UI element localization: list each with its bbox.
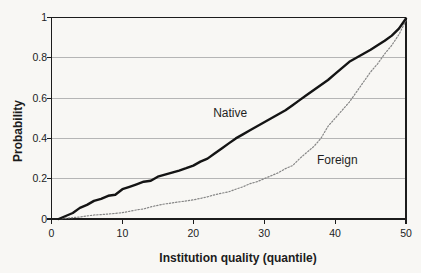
x-tick-label: 30 [249,227,279,240]
foreign-series-label: Foreign [317,153,358,167]
y-tick-label: 0.6 [4,92,47,105]
x-tick-label: 40 [320,227,350,240]
y-tick-label: 0 [4,213,47,226]
cdf-figure: Probability Institution quality (quantil… [0,0,421,273]
y-tick-label: 0.8 [4,51,47,64]
x-tick-label: 10 [107,227,137,240]
y-tick-label: 1 [4,11,47,24]
x-tick-label: 50 [391,227,421,240]
native-series-label: Native [213,106,247,120]
x-tick-label: 20 [178,227,208,240]
y-tick-label: 0.2 [4,172,47,185]
y-tick-label: 0.4 [4,132,47,145]
x-axis-title: Institution quality (quantile) [60,251,416,265]
x-tick-label: 0 [37,227,67,240]
